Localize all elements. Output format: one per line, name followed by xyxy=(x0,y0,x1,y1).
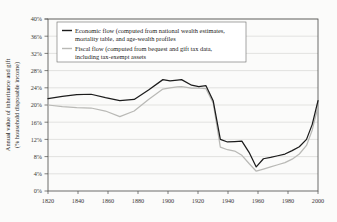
x-tickmarks xyxy=(48,191,318,194)
x-tick-label-1920: 1920 xyxy=(192,197,204,204)
y-axis-title: Annual value of inheritance and gift (% … xyxy=(4,59,21,152)
y-tick-label-20: 20% xyxy=(31,101,42,108)
x-tick-label-1940: 1940 xyxy=(222,197,234,204)
y-tick-label-24: 24% xyxy=(31,84,42,91)
inheritance-flow-chart: 40% 36% 32% 28% 24% 20% 16% 12% 8% 4% 0%… xyxy=(0,0,337,222)
x-tick-label-1900: 1900 xyxy=(162,197,174,204)
chart-page: 40% 36% 32% 28% 24% 20% 16% 12% 8% 4% 0%… xyxy=(0,0,337,222)
y-axis-title-line2: (% household disposable income) xyxy=(13,62,21,148)
y-tick-label-36: 36% xyxy=(31,33,42,40)
legend-label-fiscal-line1: Fiscal flow (computed from bequest and g… xyxy=(75,45,213,53)
legend-label-economic-line2: mortality table, and age-wealth profiles xyxy=(75,35,176,42)
x-tick-label-2000: 2000 xyxy=(312,197,324,204)
x-tick-labels: 1820 1840 1860 1880 1900 1920 1940 1960 … xyxy=(42,197,324,204)
x-tick-label-1820: 1820 xyxy=(42,197,54,204)
y-tick-label-28: 28% xyxy=(31,67,42,74)
legend-label-fiscal-line2: including tax-exempt assets xyxy=(75,53,147,60)
y-tick-label-8: 8% xyxy=(34,153,42,160)
y-tick-label-40: 40% xyxy=(31,15,42,22)
y-tick-label-16: 16% xyxy=(31,119,42,126)
x-tick-label-1960: 1960 xyxy=(252,197,264,204)
y-tick-label-0: 0% xyxy=(34,187,42,194)
x-tick-label-1980: 1980 xyxy=(282,197,294,204)
y-axis-title-line1: Annual value of inheritance and gift xyxy=(4,59,11,152)
y-tick-label-32: 32% xyxy=(31,50,42,57)
legend: Economic flow (computed from national we… xyxy=(57,22,246,62)
x-tick-label-1880: 1880 xyxy=(132,197,144,204)
y-tick-labels: 40% 36% 32% 28% 24% 20% 16% 12% 8% 4% 0% xyxy=(31,15,42,194)
series-line-fiscal xyxy=(48,87,318,172)
y-tick-label-4: 4% xyxy=(34,170,42,177)
series-line-economic xyxy=(48,80,318,167)
x-tick-label-1860: 1860 xyxy=(102,197,114,204)
x-tick-label-1840: 1840 xyxy=(72,197,84,204)
legend-label-economic-line1: Economic flow (computed from national we… xyxy=(75,27,225,35)
y-tick-label-12: 12% xyxy=(31,136,42,143)
